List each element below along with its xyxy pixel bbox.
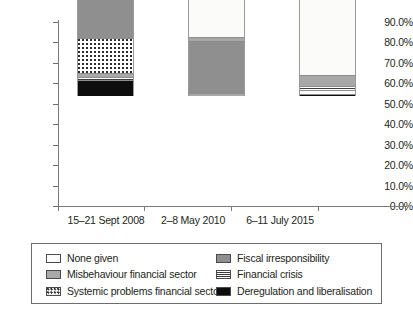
y-axis-tick-label: 90.0%	[367, 17, 413, 28]
legend-item-misbehaviour-financial-sector: Misbehaviour financial sector	[46, 267, 222, 284]
x-axis-tick-mark	[231, 206, 232, 211]
x-axis-tick-mark	[405, 206, 406, 211]
segment-financial-crisis	[188, 93, 245, 97]
segment-deregulation-and-liberalisation	[299, 94, 356, 96]
legend-label: Systemic problems financial sector	[67, 286, 222, 297]
segment-systemic-problems-financial-sector	[77, 38, 134, 73]
y-axis-tick-label: 50.0%	[367, 99, 413, 110]
y-axis-tick-label: 40.0%	[367, 119, 413, 130]
segment-deregulation-and-liberalisation	[77, 80, 134, 96]
legend-label: Misbehaviour financial sector	[67, 269, 197, 280]
y-axis-tick-label: 20.0%	[367, 160, 413, 171]
legend-swatch-financial-crisis-icon	[216, 270, 231, 279]
legend-swatch-fiscal-irresponsibility-icon	[216, 254, 231, 263]
segment-misbehaviour-financial-sector	[299, 75, 356, 86]
segment-fiscal-irresponsibility	[77, 0, 134, 38]
bar-6-11-july-2015	[299, 0, 356, 96]
legend-swatch-misbehaviour-financial-sector-icon	[46, 270, 61, 279]
legend-label: None given	[67, 253, 118, 264]
segment-none-given	[188, 0, 245, 37]
legend: None given Misbehaviour financial sector…	[31, 243, 382, 304]
legend-item-deregulation-and-liberalisation: Deregulation and liberalisation	[216, 283, 372, 300]
legend-swatch-systemic-problems-financial-sector-icon	[46, 287, 61, 296]
y-axis-tick-label: 80.0%	[367, 37, 413, 48]
bar-2-8-may-2010	[188, 0, 245, 96]
legend-swatch-deregulation-and-liberalisation-icon	[216, 287, 231, 296]
x-axis-tick-mark	[144, 206, 145, 211]
legend-column-right: Fiscal irresponsibility Financial crisis…	[216, 250, 372, 300]
y-axis-tick-label: 60.0%	[367, 78, 413, 89]
legend-item-fiscal-irresponsibility: Fiscal irresponsibility	[216, 250, 372, 267]
y-axis-line	[58, 20, 59, 207]
legend-item-financial-crisis: Financial crisis	[216, 267, 372, 284]
legend-label: Financial crisis	[237, 269, 303, 280]
x-axis-tick-mark	[58, 206, 59, 211]
segment-fiscal-irresponsibility	[188, 41, 245, 93]
bar-15-21-sept-2008	[77, 0, 134, 96]
legend-label: Fiscal irresponsibility	[237, 253, 329, 264]
stacked-bar-chart: 90.0% 80.0% 70.0% 60.0% 50.0% 40.0% 30.0…	[0, 0, 413, 325]
y-axis-tick-label: 10.0%	[367, 181, 413, 192]
x-axis-label-1: 2–8 May 2010	[145, 214, 241, 226]
legend-column-left: None given Misbehaviour financial sector…	[46, 250, 222, 300]
x-axis-label-0: 15–21 Sept 2008	[58, 214, 154, 226]
plot-area: 90.0% 80.0% 70.0% 60.0% 50.0% 40.0% 30.0…	[0, 0, 413, 215]
x-axis-tick-mark	[318, 206, 319, 211]
segment-none-given	[299, 0, 356, 75]
legend-label: Deregulation and liberalisation	[237, 286, 372, 297]
legend-swatch-none-given-icon	[46, 254, 61, 263]
legend-item-systemic-problems-financial-sector: Systemic problems financial sector	[46, 283, 222, 300]
legend-item-none-given: None given	[46, 250, 222, 267]
x-axis-label-2: 6–11 July 2015	[232, 214, 328, 226]
y-axis-tick-label: 70.0%	[367, 58, 413, 69]
y-axis-tick-label: 30.0%	[367, 140, 413, 151]
